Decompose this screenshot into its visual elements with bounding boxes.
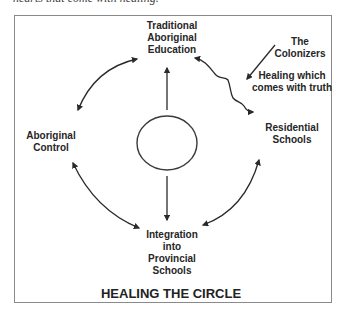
annotation-colonizers-line-1: The <box>270 36 330 48</box>
node-right-label: Residential Schools <box>256 122 328 146</box>
node-top-line-2: Aboriginal <box>122 32 222 44</box>
node-bottom-line-2: into <box>122 241 222 253</box>
node-right-line-1: Residential <box>256 122 328 134</box>
node-top-label: Traditional Aboriginal Education <box>122 20 222 56</box>
node-left-line-1: Aboriginal <box>20 130 82 142</box>
center-circle <box>137 116 197 170</box>
annotation-colonizers-line-2: Colonizers <box>270 48 330 60</box>
node-bottom-line-3: Provincial <box>122 253 222 265</box>
node-left-line-2: Control <box>20 142 82 154</box>
node-bottom-line-4: Schools <box>122 265 222 277</box>
diagram-title: HEALING THE CIRCLE <box>0 286 342 301</box>
annotation-healing: Healing which comes with truth <box>252 70 332 94</box>
annotation-colonizers: The Colonizers <box>270 36 330 60</box>
annotation-healing-line-2: comes with truth <box>252 82 332 94</box>
node-top-line-1: Traditional <box>122 20 222 32</box>
node-bottom-label: Integration into Provincial Schools <box>122 229 222 277</box>
arrow-top-right-wavy <box>195 58 253 112</box>
arrow-left-bottom <box>73 163 139 228</box>
arrow-left-top <box>78 59 137 110</box>
node-bottom-line-1: Integration <box>122 229 222 241</box>
annotation-healing-line-1: Healing which <box>252 70 332 82</box>
node-top-line-3: Education <box>122 44 222 56</box>
node-left-label: Aboriginal Control <box>20 130 82 154</box>
node-right-line-2: Schools <box>256 134 328 146</box>
arrow-bottom-right <box>203 160 259 225</box>
